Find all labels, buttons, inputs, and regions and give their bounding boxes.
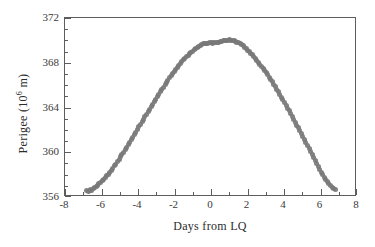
x-axis-minor-tick xyxy=(339,192,340,195)
y-axis-minor-tick xyxy=(65,186,68,187)
x-axis-major-tick xyxy=(284,189,285,195)
x-axis-tick-label: 8 xyxy=(353,199,359,210)
y-axis-tick-label: 356 xyxy=(43,191,60,202)
x-axis-tick-label: 2 xyxy=(244,199,250,210)
x-axis-major-tick xyxy=(138,189,139,195)
y-axis-major-tick xyxy=(65,152,71,153)
y-axis-minor-tick xyxy=(65,52,68,53)
y-axis-tick-label: 364 xyxy=(43,101,60,112)
x-axis-minor-tick xyxy=(229,192,230,195)
x-axis-tick-label: -6 xyxy=(96,199,105,210)
x-axis-major-tick xyxy=(175,189,176,195)
x-axis-minor-tick xyxy=(83,192,84,195)
x-axis-minor-tick xyxy=(120,192,121,195)
y-axis-label: Perigee (106 m) xyxy=(16,34,31,194)
y-axis-minor-tick xyxy=(65,163,68,164)
x-axis-label: Days from LQ xyxy=(64,219,356,234)
x-axis-major-tick xyxy=(321,189,322,195)
y-axis-label-text: Perigee (10 xyxy=(16,95,30,153)
x-axis-tick-label: 4 xyxy=(280,199,286,210)
x-axis-minor-tick xyxy=(266,192,267,195)
x-axis-tick-label: -4 xyxy=(132,199,141,210)
y-axis-minor-tick xyxy=(65,74,68,75)
y-axis-label-suffix: m) xyxy=(16,74,30,91)
y-axis-tick-label: 360 xyxy=(43,146,60,157)
y-axis-minor-tick xyxy=(65,130,68,131)
x-axis-tick-label: 0 xyxy=(207,199,213,210)
x-axis-tick-label: -2 xyxy=(169,199,178,210)
x-axis-tick-label: -8 xyxy=(59,199,68,210)
y-axis-minor-tick xyxy=(65,96,68,97)
y-axis-major-tick xyxy=(65,63,71,64)
x-axis-minor-tick xyxy=(156,192,157,195)
y-axis-major-tick xyxy=(65,18,71,19)
y-axis-tick-label: 372 xyxy=(43,12,60,23)
data-point xyxy=(333,187,338,192)
x-axis-minor-tick xyxy=(302,192,303,195)
y-axis-tick-label: 368 xyxy=(43,56,60,67)
y-axis-label-exponent: 6 xyxy=(15,91,24,95)
y-axis-major-tick xyxy=(65,196,71,197)
y-axis-major-tick xyxy=(65,108,71,109)
x-axis-major-tick xyxy=(211,189,212,195)
scatter-points-layer xyxy=(65,18,355,195)
y-axis-minor-tick xyxy=(65,175,68,176)
x-axis-major-tick xyxy=(248,189,249,195)
y-axis-minor-tick xyxy=(65,85,68,86)
plot-frame xyxy=(64,17,356,196)
y-axis-minor-tick xyxy=(65,40,68,41)
y-axis-minor-tick xyxy=(65,119,68,120)
y-axis-minor-tick xyxy=(65,141,68,142)
x-axis-major-tick xyxy=(356,189,357,195)
x-axis-minor-tick xyxy=(193,192,194,195)
x-axis-tick-label: 6 xyxy=(317,199,323,210)
chart-figure: -8-6-4-202468356360364368372 Days from L… xyxy=(0,0,375,247)
x-axis-major-tick xyxy=(102,189,103,195)
x-axis-major-tick xyxy=(65,189,66,195)
y-axis-minor-tick xyxy=(65,29,68,30)
